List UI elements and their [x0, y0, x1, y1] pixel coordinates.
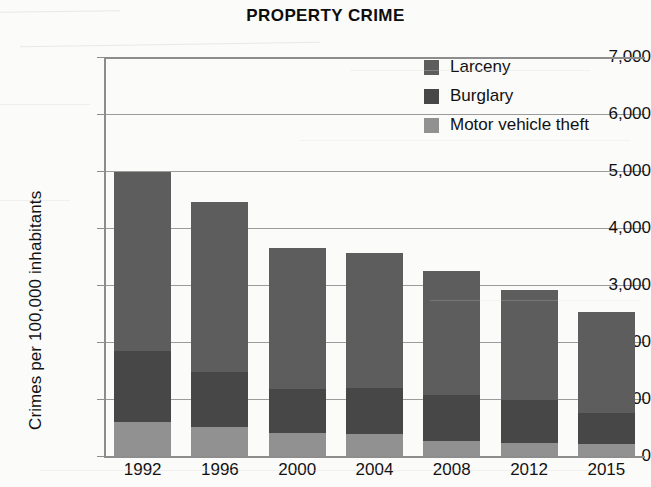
legend-swatch-motor-vehicle-theft [424, 118, 439, 133]
bar-segment-larceny-1992 [114, 172, 171, 350]
bar-2004 [346, 253, 403, 456]
bar-2015 [578, 312, 635, 456]
legend-label: Burglary [450, 86, 513, 106]
bar-segment-motor-vehicle-theft-2000 [269, 433, 326, 456]
y-axis-title: Crimes per 100,000 inhabitants [26, 191, 46, 430]
legend-item-burglary[interactable]: Burglary [424, 86, 589, 106]
bar-segment-larceny-2012 [501, 290, 558, 400]
y-axis-tick [97, 342, 104, 343]
x-axis-tick-label-2004: 2004 [356, 460, 394, 480]
legend-swatch-larceny [424, 60, 439, 75]
bar-segment-motor-vehicle-theft-1992 [114, 422, 171, 456]
legend-item-motor-vehicle-theft[interactable]: Motor vehicle theft [424, 115, 589, 135]
y-axis-tick [97, 399, 104, 400]
property-crime-chart: PROPERTY CRIME Crimes per 100,000 inhabi… [0, 0, 651, 487]
bar-1996 [191, 202, 248, 457]
bar-segment-burglary-1992 [114, 351, 171, 422]
bar-segment-motor-vehicle-theft-2015 [578, 444, 635, 456]
bar-1992 [114, 172, 171, 456]
y-axis-tick [97, 171, 104, 172]
y-axis-tick [97, 228, 104, 229]
legend-swatch-burglary [424, 89, 439, 104]
bar-segment-larceny-2015 [578, 312, 635, 413]
bar-segment-burglary-2015 [578, 413, 635, 444]
legend-label: Motor vehicle theft [450, 115, 589, 135]
legend-label: Larceny [450, 57, 510, 77]
bar-segment-burglary-2008 [423, 395, 480, 441]
bar-2012 [501, 290, 558, 456]
bar-segment-motor-vehicle-theft-1996 [191, 427, 248, 456]
x-axis-tick-label-2000: 2000 [278, 460, 316, 480]
y-axis-tick [97, 456, 104, 457]
bar-2008 [423, 271, 480, 456]
bar-segment-larceny-1996 [191, 202, 248, 372]
bar-segment-motor-vehicle-theft-2008 [423, 441, 480, 456]
bar-segment-burglary-2004 [346, 388, 403, 434]
x-axis-tick-label-2012: 2012 [510, 460, 548, 480]
legend-item-larceny[interactable]: Larceny [424, 57, 589, 77]
x-axis-tick-label-1996: 1996 [201, 460, 239, 480]
bar-segment-larceny-2000 [269, 248, 326, 389]
chart-title: PROPERTY CRIME [0, 6, 651, 26]
y-axis-tick [97, 57, 104, 58]
chart-legend: LarcenyBurglaryMotor vehicle theft [424, 57, 589, 135]
x-axis-tick-label-1992: 1992 [124, 460, 162, 480]
bar-segment-larceny-2008 [423, 271, 480, 395]
x-axis-tick-label-2015: 2015 [587, 460, 625, 480]
bar-segment-motor-vehicle-theft-2004 [346, 434, 403, 456]
y-axis-tick [97, 114, 104, 115]
bar-segment-burglary-1996 [191, 372, 248, 427]
x-axis-tick-label-2008: 2008 [433, 460, 471, 480]
bar-segment-motor-vehicle-theft-2012 [501, 443, 558, 456]
bar-segment-burglary-2012 [501, 400, 558, 443]
y-axis-tick [97, 285, 104, 286]
bar-segment-burglary-2000 [269, 389, 326, 433]
x-axis-line [104, 456, 645, 458]
bar-segment-larceny-2004 [346, 253, 403, 388]
bar-2000 [269, 248, 326, 456]
